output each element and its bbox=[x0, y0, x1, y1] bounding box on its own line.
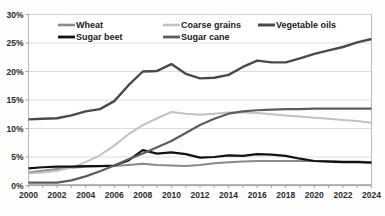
legend-label-sugar-cane: Sugar cane bbox=[181, 32, 230, 42]
series-line-sugar-cane bbox=[29, 109, 372, 183]
chart-container: 0%5%10%15%20%25%30% 20002002200420062008… bbox=[0, 0, 385, 216]
chart-legend: WheatCoarse grainsVegetable oilsSugar be… bbox=[58, 20, 336, 42]
y-tick-label: 5% bbox=[11, 152, 24, 162]
x-tick-label: 2020 bbox=[305, 190, 324, 200]
legend-label-vegetable-oils: Vegetable oils bbox=[276, 20, 336, 30]
y-tick-label: 15% bbox=[6, 95, 23, 105]
x-tick-label: 2024 bbox=[362, 190, 381, 200]
x-tick-label: 2016 bbox=[248, 190, 267, 200]
legend-label-coarse-grains: Coarse grains bbox=[181, 20, 241, 30]
line-chart: 0%5%10%15%20%25%30% 20002002200420062008… bbox=[0, 0, 385, 216]
x-tick-label: 2014 bbox=[219, 190, 238, 200]
legend-label-sugar-beet: Sugar beet bbox=[76, 32, 123, 42]
y-tick-label: 20% bbox=[6, 67, 23, 77]
x-tick-label: 2008 bbox=[133, 190, 152, 200]
y-tick-label: 10% bbox=[6, 124, 23, 134]
x-tick-label: 2022 bbox=[333, 190, 352, 200]
x-axis-ticks: 2000200220042006200820102012201420162018… bbox=[19, 186, 381, 200]
x-tick-label: 2018 bbox=[276, 190, 295, 200]
x-tick-label: 2012 bbox=[191, 190, 210, 200]
x-tick-label: 2004 bbox=[76, 190, 95, 200]
x-tick-label: 2000 bbox=[19, 190, 38, 200]
y-tick-label: 25% bbox=[6, 38, 23, 48]
x-tick-label: 2002 bbox=[48, 190, 67, 200]
legend-label-wheat: Wheat bbox=[76, 20, 103, 30]
series-lines bbox=[29, 39, 372, 183]
y-tick-label: 30% bbox=[6, 10, 23, 20]
x-tick-label: 2006 bbox=[105, 190, 124, 200]
series-line-vegetable-oils bbox=[29, 39, 372, 119]
x-tick-label: 2010 bbox=[162, 190, 181, 200]
y-axis-ticks: 0%5%10%15%20%25%30% bbox=[6, 10, 28, 191]
